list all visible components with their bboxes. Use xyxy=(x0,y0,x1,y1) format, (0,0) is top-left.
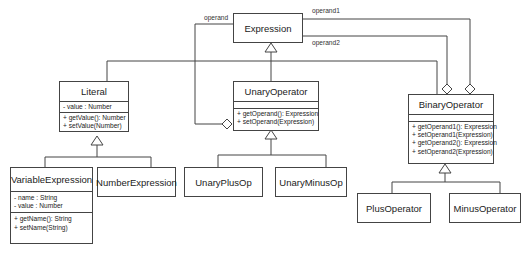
class-literal[interactable]: Literal - value : Number + getValue(): N… xyxy=(59,81,129,132)
class-name: Literal xyxy=(60,82,128,102)
method: + getValue(): Number xyxy=(63,114,125,122)
operand-label: operand xyxy=(204,14,228,21)
method: + getOperand2(): Expression xyxy=(412,139,490,147)
class-binary-operator[interactable]: BinaryOperator + getOperand1(): Expressi… xyxy=(408,94,494,164)
attribute: - name : String xyxy=(14,194,89,202)
attributes-section xyxy=(409,115,493,122)
operand2-label: operand2 xyxy=(312,39,340,46)
class-plus-operator[interactable]: PlusOperator xyxy=(357,193,431,223)
class-name: UnaryOperator xyxy=(234,82,318,102)
class-variable-expression[interactable]: VariableExpression - name : String - val… xyxy=(10,167,93,244)
method: + setOperand1(Expression) xyxy=(412,131,490,139)
class-name: VariableExpression xyxy=(11,168,92,192)
method: + getOperand1(): Expression xyxy=(412,123,490,131)
methods-section: + getName(): String + setName(String) xyxy=(11,213,92,232)
method: + setOperand(Expression) xyxy=(237,118,315,126)
method: + setValue(Number) xyxy=(63,122,125,130)
class-name: PlusOperator xyxy=(358,194,430,222)
method: + setName(String) xyxy=(14,224,89,232)
attributes-section: - name : String - value : Number xyxy=(11,192,92,213)
class-unary-operator[interactable]: UnaryOperator + getOperand(): Expression… xyxy=(233,81,319,131)
class-unary-minus-op[interactable]: UnaryMinusOp xyxy=(275,167,347,197)
class-name: BinaryOperator xyxy=(409,95,493,115)
attribute: - value : Number xyxy=(63,103,125,111)
class-name: UnaryPlusOp xyxy=(185,168,262,196)
methods-section: + getValue(): Number + setValue(Number) xyxy=(60,113,128,131)
attributes-section xyxy=(234,102,318,109)
class-name: Expression xyxy=(234,14,302,42)
attributes-section: - value : Number xyxy=(60,102,128,113)
method: + getName(): String xyxy=(14,215,89,223)
methods-section: + getOperand(): Expression + setOperand(… xyxy=(234,109,318,127)
attribute: - value : Number xyxy=(14,202,89,210)
class-expression[interactable]: Expression xyxy=(233,13,303,43)
class-name: NumberExpression xyxy=(98,168,175,196)
class-number-expression[interactable]: NumberExpression xyxy=(97,167,176,197)
operand1-label: operand1 xyxy=(312,7,340,14)
class-name: MinusOperator xyxy=(450,194,520,222)
method: + getOperand(): Expression xyxy=(237,110,315,118)
method: + setOperand2(Expression) xyxy=(412,148,490,156)
class-minus-operator[interactable]: MinusOperator xyxy=(449,193,521,223)
class-name: UnaryMinusOp xyxy=(276,168,346,196)
methods-section: + getOperand1(): Expression + setOperand… xyxy=(409,122,493,157)
class-unary-plus-op[interactable]: UnaryPlusOp xyxy=(184,167,263,197)
